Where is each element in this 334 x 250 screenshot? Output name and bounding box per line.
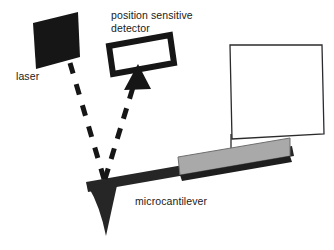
label-laser: laser (16, 70, 39, 83)
afm-schematic-figure: position sensitivedetector laser microca… (0, 0, 334, 250)
diagram-canvas (0, 0, 334, 250)
label-microcantilever: microcantilever (135, 195, 207, 208)
position-sensitive-detector-body (109, 35, 174, 74)
label-detector-line1: position sensitive (111, 9, 193, 21)
label-detector-line2: detector (111, 22, 150, 34)
cantilever-tip (88, 181, 118, 236)
label-position-sensitive-detector: position sensitivedetector (111, 9, 193, 35)
reflected-beam-dashed (105, 84, 134, 179)
incident-beam-dashed (70, 63, 104, 179)
laser-source-block (33, 12, 80, 69)
sample-holder-outline (230, 45, 324, 139)
